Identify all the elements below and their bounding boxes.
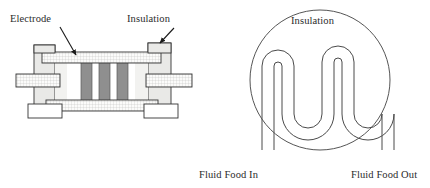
left-panel-figure: [0, 0, 430, 188]
diagram-canvas: Electrode Insulation Insulation Fluid Fo…: [0, 0, 430, 188]
upper-electrode-plate: [42, 52, 161, 63]
lower-electrode-plate: [46, 100, 158, 111]
electrode-bar: [117, 60, 128, 102]
electrode-leader-arrow: [60, 27, 76, 55]
label-electrode: Electrode: [10, 13, 51, 24]
insulation-circle: [250, 10, 390, 150]
electrode-bar: [81, 60, 92, 102]
electrode-bar: [99, 60, 110, 102]
label-insulation-left-panel: Insulation: [127, 13, 170, 24]
lower-left-base-block: [28, 104, 62, 118]
right-port-flange: [146, 74, 192, 87]
upper-left-cap-block: [34, 45, 55, 53]
insulation-leader-arrow: [160, 28, 174, 43]
electrode-bar-stack: [67, 58, 135, 104]
serpentine-tube-inner-wall: [274, 58, 394, 150]
label-fluid-food-out: Fluid Food Out: [351, 169, 417, 180]
lower-right-base-block: [144, 104, 178, 118]
right-panel-figure: [250, 10, 394, 150]
upper-right-cap-block: [148, 43, 171, 53]
label-fluid-food-in: Fluid Food In: [199, 169, 258, 180]
left-port-flange: [16, 74, 60, 87]
label-insulation-right-panel: Insulation: [291, 15, 334, 26]
